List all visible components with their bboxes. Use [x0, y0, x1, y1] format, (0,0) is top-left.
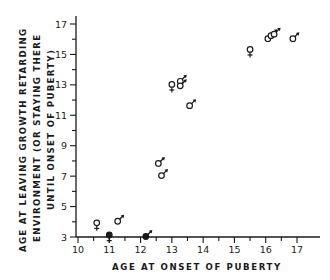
y-tick-label: 9 — [61, 140, 67, 151]
male-symbol-icon — [143, 230, 152, 239]
male-symbol-icon — [177, 75, 186, 84]
y-tick-label: 5 — [61, 201, 67, 212]
female-symbol-icon — [169, 82, 175, 93]
female-symbol-icon — [106, 232, 112, 243]
y-tick-label: 15 — [55, 49, 67, 60]
x-tick-label: 17 — [291, 244, 303, 255]
female-symbol-icon — [94, 220, 100, 231]
male-symbol-icon — [159, 169, 168, 178]
axes: 3579111315171011121314151617 — [55, 16, 320, 255]
female-symbol-icon — [247, 47, 253, 58]
x-tick-label: 12 — [135, 244, 147, 255]
male-symbol-icon — [290, 32, 299, 41]
male-symbol-icon — [187, 99, 196, 108]
scatter-chart: 3579111315171011121314151617 — [0, 0, 330, 280]
male-symbol-icon — [156, 157, 165, 166]
x-tick-label: 14 — [197, 244, 209, 255]
data-points — [94, 28, 299, 243]
x-tick-label: 11 — [103, 244, 115, 255]
y-tick-label: 11 — [55, 110, 67, 121]
y-tick-label: 17 — [55, 19, 67, 30]
x-tick-label: 10 — [72, 244, 84, 255]
y-tick-label: 3 — [61, 232, 67, 243]
x-tick-label: 13 — [166, 244, 178, 255]
x-tick-label: 15 — [228, 244, 240, 255]
male-symbol-icon — [115, 215, 124, 224]
male-symbol-icon — [271, 28, 280, 37]
x-tick-label: 16 — [260, 244, 272, 255]
y-tick-label: 13 — [55, 79, 67, 90]
y-tick-label: 7 — [61, 171, 67, 182]
